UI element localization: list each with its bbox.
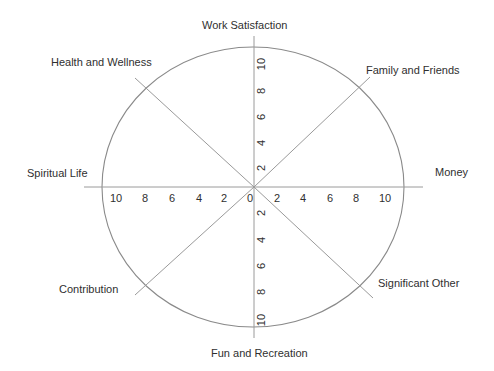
spoke-family-friends [254,77,370,187]
svg-text:8: 8 [353,192,359,204]
ticks-down: 2 4 6 8 10 [255,210,267,326]
label-contribution: Contribution [59,283,118,295]
svg-text:0: 0 [247,192,253,204]
svg-text:6: 6 [169,192,175,204]
label-fun-and-recreation: Fun and Recreation [211,347,308,359]
svg-text:4: 4 [255,237,267,243]
svg-text:2: 2 [255,165,267,171]
label-significant-other: Significant Other [378,277,459,289]
svg-text:8: 8 [255,289,267,295]
svg-text:4: 4 [196,192,202,204]
ticks-right: 2 4 6 8 10 [274,192,391,204]
label-family-and-friends: Family and Friends [366,64,460,76]
svg-text:4: 4 [300,192,306,204]
label-work-satisfaction: Work Satisfaction [202,19,287,31]
ticks-up: 2 4 6 8 10 [255,58,267,171]
svg-text:10: 10 [379,192,391,204]
svg-text:2: 2 [274,192,280,204]
svg-text:6: 6 [327,192,333,204]
svg-text:6: 6 [255,114,267,120]
svg-text:4: 4 [255,140,267,146]
svg-text:6: 6 [255,263,267,269]
spoke-health-contribution-outer [135,78,254,187]
svg-text:10: 10 [255,58,267,70]
svg-text:8: 8 [255,88,267,94]
label-health-and-wellness: Health and Wellness [51,56,152,68]
svg-text:10: 10 [255,314,267,326]
svg-text:2: 2 [221,192,227,204]
svg-text:8: 8 [142,192,148,204]
ticks-left: 10 8 6 4 2 0 [110,192,253,204]
svg-text:10: 10 [110,192,122,204]
svg-text:2: 2 [255,210,267,216]
label-money: Money [435,166,468,178]
label-spiritual-life: Spiritual Life [27,167,88,179]
spoke-contribution [135,187,254,295]
